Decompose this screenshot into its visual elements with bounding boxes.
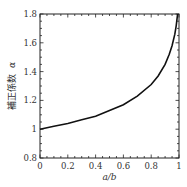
y-axis-label: 補正係数 α <box>6 62 17 110</box>
y-tick-label: 0.8 <box>23 153 37 163</box>
x-tick-label: 0.8 <box>144 161 158 171</box>
y-tick-label: 1.8 <box>23 9 37 19</box>
y-tick-labels: 0.811.21.41.61.8 <box>23 9 37 163</box>
axis-ticks <box>40 14 179 158</box>
x-tick-label: 0.4 <box>89 161 103 171</box>
x-axis-label: a/b <box>102 172 116 182</box>
y-axis-label-text: 補正係数 <box>6 74 17 110</box>
x-tick-label: 0 <box>37 161 42 171</box>
x-tick-label: 0.6 <box>117 161 131 171</box>
y-tick-label: 1.2 <box>23 95 37 105</box>
data-line <box>40 14 178 129</box>
x-tick-label: 0.2 <box>61 161 75 171</box>
chart: 00.20.40.60.81 0.811.21.41.61.8 a/b 補正係数… <box>0 0 187 187</box>
y-tick-label: 1.6 <box>23 38 37 48</box>
y-tick-label: 1.4 <box>23 67 37 77</box>
y-tick-label: 1 <box>32 124 37 134</box>
x-tick-label: 1 <box>176 161 181 171</box>
y-axis-label-symbol: α <box>7 62 17 68</box>
x-tick-labels: 00.20.40.60.81 <box>37 161 181 171</box>
plot-frame <box>40 14 179 158</box>
